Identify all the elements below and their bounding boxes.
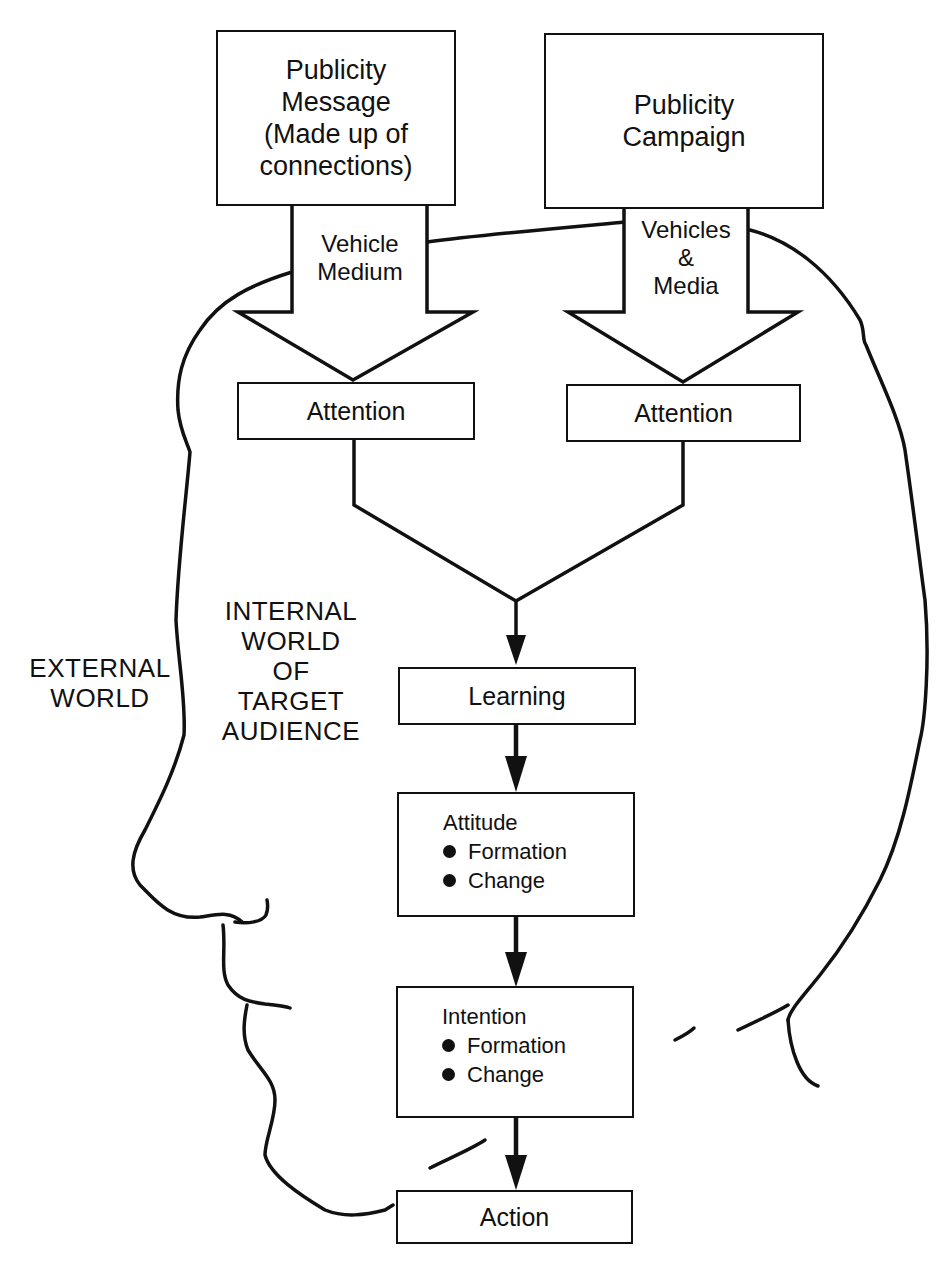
internal-line-1: INTERNAL [208,596,374,626]
learning-label: Learning [468,681,565,711]
bullet-icon [442,1039,455,1052]
internal-line-5: AUDIENCE [208,716,374,746]
external-line-1: EXTERNAL [20,653,180,683]
bullet-icon [442,1068,455,1081]
intention-bullet-1-label: Formation [467,1031,566,1060]
attitude-title: Attitude [443,808,518,837]
publicity-campaign-line-2: Campaign [622,121,745,153]
publicity-message-box: Publicity Message (Made up of connection… [216,30,456,206]
publicity-campaign-box: Publicity Campaign [544,33,824,209]
publicity-campaign-line-1: Publicity [634,89,735,121]
publicity-message-line-2: Message [281,86,391,118]
arrow-head-to-attitude-icon [505,756,527,792]
attitude-box: Attitude Formation Change [397,792,635,917]
arrow-head-to-action-icon [505,1155,527,1190]
attitude-bullet-change: Change [443,866,545,895]
arrow-head-to-learning-icon [506,635,526,665]
action-label: Action [480,1202,549,1232]
attitude-bullet-2-label: Change [468,866,545,895]
attitude-bullet-1-label: Formation [468,837,567,866]
bullet-icon [443,845,456,858]
intention-bullet-2-label: Change [467,1060,544,1089]
publicity-message-line-1: Publicity [286,54,387,86]
external-world-label: EXTERNAL WORLD [20,653,180,713]
intention-title: Intention [442,1002,526,1031]
vehicles-media-line-1: Vehicles [626,216,746,244]
vehicles-media-label: Vehicles & Media [626,216,746,300]
attention-box-right: Attention [566,384,801,442]
action-box: Action [396,1190,633,1244]
vehicles-media-line-3: Media [626,272,746,300]
arrow-head-to-intention-icon [505,952,527,987]
vehicle-medium-line-2: Medium [294,258,426,286]
internal-world-label: INTERNAL WORLD OF TARGET AUDIENCE [208,596,374,746]
publicity-message-line-3: (Made up of [264,118,408,150]
internal-line-3: OF [208,656,374,686]
internal-line-4: TARGET [208,686,374,716]
vehicle-medium-label: Vehicle Medium [294,230,426,286]
intention-bullet-formation: Formation [442,1031,566,1060]
learning-box: Learning [398,667,636,725]
attention-box-left: Attention [237,382,475,440]
bullet-icon [443,874,456,887]
internal-line-2: WORLD [208,626,374,656]
attention-left-label: Attention [307,396,406,426]
external-line-2: WORLD [20,683,180,713]
attitude-bullet-formation: Formation [443,837,567,866]
attention-right-label: Attention [634,398,733,428]
intention-bullet-change: Change [442,1060,544,1089]
vehicles-media-line-2: & [626,244,746,272]
publicity-message-line-4: connections) [259,150,412,182]
intention-box: Intention Formation Change [396,986,634,1118]
merge-connector [354,440,683,645]
vehicle-medium-line-1: Vehicle [294,230,426,258]
